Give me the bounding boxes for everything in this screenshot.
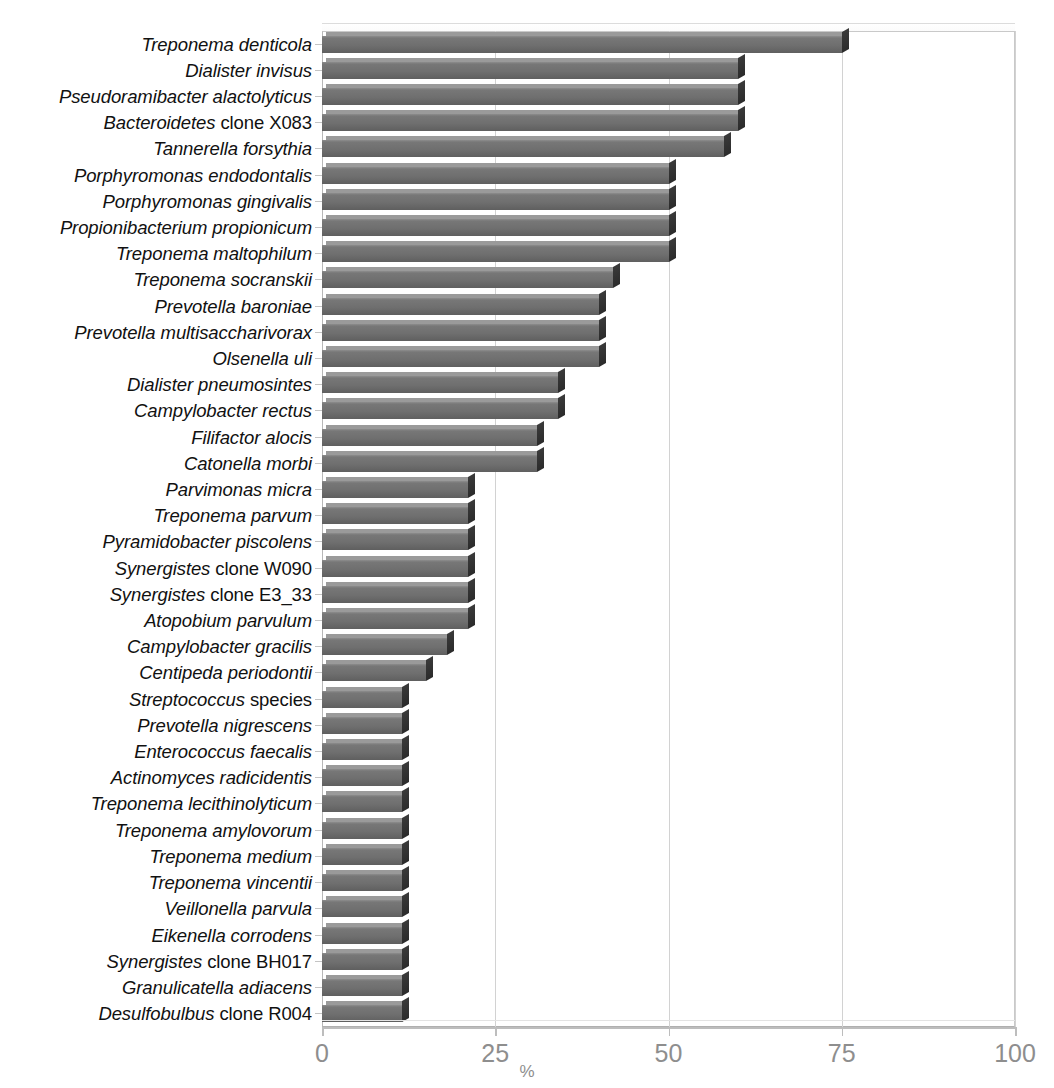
bar-row[interactable] [322,948,1015,974]
bar-row[interactable] [322,791,1015,817]
bar-row[interactable] [322,686,1015,712]
bar[interactable] [322,638,447,655]
bar[interactable] [322,324,599,341]
bar[interactable] [322,507,468,524]
bar-row[interactable] [322,896,1015,922]
bar[interactable] [322,717,402,734]
category-tick [315,437,322,438]
bar-row[interactable] [322,581,1015,607]
bar-row[interactable] [322,503,1015,529]
bar-row[interactable] [322,1001,1015,1027]
bar[interactable] [322,455,537,472]
bar-row[interactable] [322,634,1015,660]
bar-row[interactable] [322,241,1015,267]
bar-row[interactable] [322,712,1015,738]
bar-row[interactable] [322,398,1015,424]
x-axis-tick [1015,1027,1017,1036]
bar[interactable] [322,1005,402,1022]
bar-row[interactable] [322,214,1015,240]
bar[interactable] [322,140,724,157]
bar[interactable] [322,743,402,760]
bar[interactable] [322,927,402,944]
bar[interactable] [322,88,738,105]
bar-row[interactable] [322,817,1015,843]
bar[interactable] [322,481,468,498]
bar[interactable] [322,167,669,184]
bar-row[interactable] [322,476,1015,502]
bar[interactable] [322,612,468,629]
bar-row[interactable] [322,83,1015,109]
bar[interactable] [322,219,669,236]
bar[interactable] [322,586,468,603]
bar-row[interactable] [322,529,1015,555]
bar-row[interactable] [322,162,1015,188]
bar[interactable] [322,114,738,131]
bar-row[interactable] [322,345,1015,371]
bar-row[interactable] [322,555,1015,581]
bar[interactable] [322,900,402,917]
category-tick [315,463,322,464]
bar-row[interactable] [322,450,1015,476]
bar-row[interactable] [322,188,1015,214]
bar[interactable] [322,979,402,996]
bar[interactable] [322,376,558,393]
category-label-genus: Veillonella parvula [164,898,312,919]
bar[interactable] [322,62,738,79]
bar[interactable] [322,874,402,891]
bar-row[interactable] [322,319,1015,345]
x-axis-tick [495,1027,497,1036]
category-label: Prevotella baroniae [0,297,318,316]
bar[interactable] [322,36,842,53]
category-label-genus: Synergistes [107,951,203,972]
bar[interactable] [322,769,402,786]
bar-row[interactable] [322,870,1015,896]
bar[interactable] [322,560,468,577]
category-label: Campylobacter rectus [0,401,318,420]
bar[interactable] [322,822,402,839]
bar[interactable] [322,795,402,812]
category-tick [315,358,322,359]
bar-row[interactable] [322,843,1015,869]
category-tick [315,515,322,516]
category-label: Synergistes clone W090 [0,559,318,578]
bar[interactable] [322,271,613,288]
bar[interactable] [322,245,669,262]
bar[interactable] [322,848,402,865]
bar-row[interactable] [322,57,1015,83]
category-label: Enterococcus faecalis [0,742,318,761]
bar-row[interactable] [322,31,1015,57]
category-label-genus: Bacteroidetes [104,112,216,133]
category-label: Treponema medium [0,847,318,866]
category-label-genus: Streptococcus [129,689,245,710]
bar[interactable] [322,402,558,419]
bar-row[interactable] [322,267,1015,293]
bar-row[interactable] [322,974,1015,1000]
bar[interactable] [322,664,426,681]
bar-chart: Treponema denticolaDialister invisusPseu… [0,0,1054,1088]
bar[interactable] [322,953,402,970]
bar[interactable] [322,298,599,315]
category-label: Granulicatella adiacens [0,978,318,997]
bar-row[interactable] [322,607,1015,633]
category-tick [315,253,322,254]
x-axis-title: % [0,1062,1054,1082]
bar-row[interactable] [322,293,1015,319]
bar[interactable] [322,533,468,550]
bar[interactable] [322,429,537,446]
category-label: Treponema socranskii [0,270,318,289]
bar[interactable] [322,691,402,708]
category-tick [315,646,322,647]
bar[interactable] [322,350,599,367]
category-tick [315,96,322,97]
bar-row[interactable] [322,660,1015,686]
bar-row[interactable] [322,372,1015,398]
bar-row[interactable] [322,136,1015,162]
bar[interactable] [322,193,669,210]
category-tick [315,987,322,988]
bar-row[interactable] [322,765,1015,791]
bar-row[interactable] [322,110,1015,136]
category-label-genus: Dialister invisus [185,60,312,81]
bar-row[interactable] [322,424,1015,450]
bar-row[interactable] [322,922,1015,948]
bar-row[interactable] [322,738,1015,764]
